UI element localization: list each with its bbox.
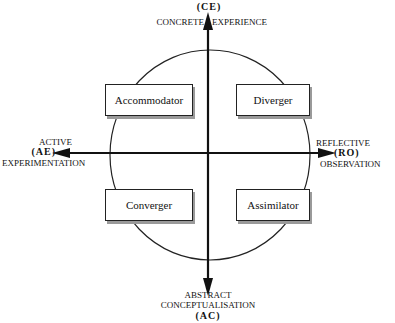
observation-label: OBSERVATION (320, 159, 392, 169)
diverger-box: Diverger (236, 84, 310, 116)
experience-label: EXPERIENCE (212, 17, 282, 27)
experimentation-label: EXPERIMENTATION (2, 158, 98, 168)
assimilator-box: Assimilator (236, 189, 310, 221)
ac-code: (AC) (190, 311, 226, 321)
converger-label: Converger (126, 199, 172, 211)
converger-box: Converger (105, 189, 193, 221)
ro-code: (RO) (334, 148, 364, 158)
ce-code: (CE) (196, 2, 222, 12)
cycle-circle (110, 50, 310, 260)
ae-code: (AE) (30, 147, 56, 157)
diverger-label: Diverger (254, 94, 293, 106)
conceptualisation-label: CONCEPTUALISATION (150, 300, 266, 310)
assimilator-label: Assimilator (247, 199, 298, 211)
concrete-label: CONCRETE (148, 17, 204, 27)
accommodator-label: Accommodator (115, 94, 183, 106)
accommodator-box: Accommodator (105, 84, 193, 116)
abstract-label: ABSTRACT (170, 290, 246, 300)
